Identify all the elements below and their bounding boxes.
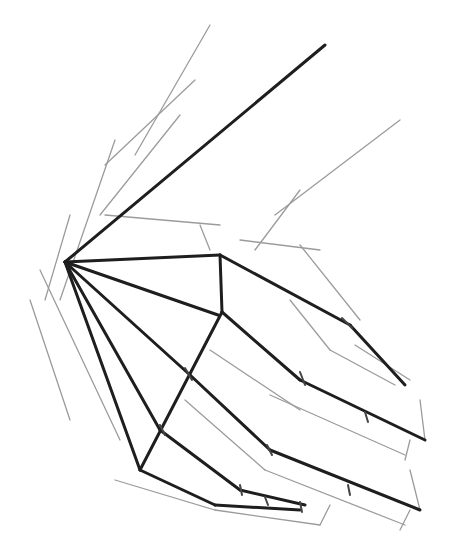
pencil-stroke xyxy=(65,262,160,430)
pencil-stroke xyxy=(30,300,70,420)
pencil-stroke xyxy=(290,300,330,350)
pencil-stroke xyxy=(222,312,300,380)
pencil-stroke xyxy=(330,350,395,385)
pencil-stroke xyxy=(410,470,420,510)
pencil-stroke xyxy=(405,440,410,460)
pencil-stroke xyxy=(300,380,425,440)
pencil-stroke xyxy=(420,400,425,440)
pencil-stroke xyxy=(220,255,350,325)
pencil-stroke xyxy=(160,430,240,490)
pencil-stroke xyxy=(400,510,410,530)
pencil-stroke xyxy=(65,262,140,470)
pencil-stroke xyxy=(200,225,210,250)
pencil-stroke xyxy=(40,270,120,440)
pencil-stroke xyxy=(140,470,215,505)
hand-sketch xyxy=(0,0,460,559)
pencil-stroke xyxy=(300,245,360,320)
pencil-stroke xyxy=(65,262,190,375)
pencil-stroke xyxy=(240,490,305,505)
pencil-stroke xyxy=(320,505,330,525)
pencil-stroke xyxy=(275,120,400,215)
pencil-stroke xyxy=(65,255,220,262)
pencil-stroke xyxy=(210,350,300,410)
pencil-stroke xyxy=(115,480,215,510)
pencil-stroke xyxy=(220,255,222,312)
pencil-stroke xyxy=(265,470,405,525)
pencil-stroke xyxy=(240,240,320,250)
pencil-stroke xyxy=(215,510,320,525)
pencil-stroke xyxy=(135,25,210,155)
pencil-stroke xyxy=(65,262,218,315)
pencil-stroke xyxy=(215,505,300,510)
pencil-stroke xyxy=(270,395,405,455)
pencil-stroke xyxy=(65,45,325,262)
light-pencil-strokes xyxy=(30,25,425,530)
pencil-stroke xyxy=(255,190,300,250)
pencil-stroke xyxy=(105,215,220,225)
